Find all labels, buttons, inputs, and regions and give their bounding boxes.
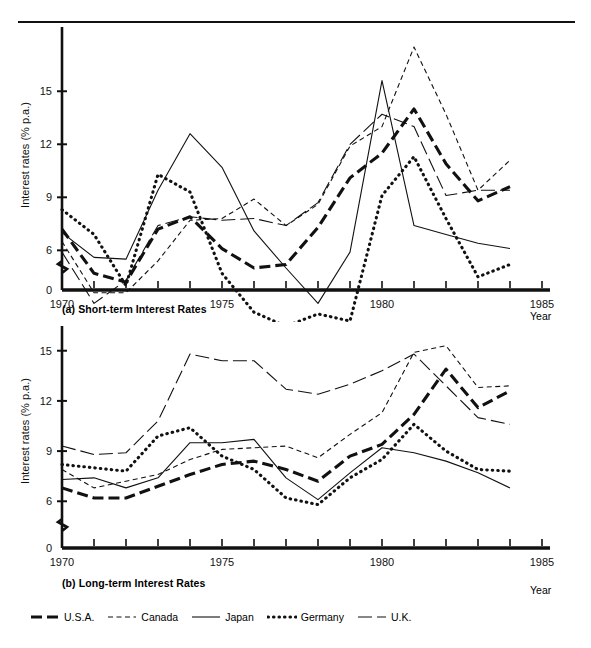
svg-text:9: 9 xyxy=(46,191,52,203)
legend-label: Germany xyxy=(301,611,344,623)
svg-text:0: 0 xyxy=(46,284,52,296)
series-line-germany xyxy=(62,424,510,504)
fine-dash-key xyxy=(107,612,137,622)
caption-long-term: (b) Long-term Interest Rates xyxy=(62,577,205,589)
legend-item-japan: Japan xyxy=(191,611,254,623)
svg-text:12: 12 xyxy=(40,395,52,407)
svg-text:1985: 1985 xyxy=(530,556,554,568)
caption-short-term: (a) Short-term Interest Rates xyxy=(62,303,207,315)
legend-label: Japan xyxy=(225,611,254,623)
solid-key xyxy=(191,612,221,622)
series-line-canada xyxy=(62,346,510,488)
series-line-usa xyxy=(62,369,510,498)
svg-text:Interest rates (% p.a.): Interest rates (% p.a.) xyxy=(19,102,31,208)
svg-text:1985: 1985 xyxy=(530,298,554,310)
series-line-uk xyxy=(62,114,510,303)
legend-item-canada: Canada xyxy=(107,611,178,623)
svg-text:1980: 1980 xyxy=(370,556,394,568)
series-line-canada xyxy=(62,47,510,293)
svg-text:15: 15 xyxy=(40,345,52,357)
series-legend: U.S.A.CanadaJapanGermanyU.K. xyxy=(30,602,570,632)
legend-item-germany: Germany xyxy=(267,611,344,623)
svg-text:0: 0 xyxy=(46,542,52,554)
svg-text:6: 6 xyxy=(46,495,52,507)
long-term-interest-rates-plot: 06912151970197519801985Interest rates (%… xyxy=(0,326,591,596)
short-term-interest-rates-plot: 06912151970197519801985Interest rates (%… xyxy=(0,22,591,322)
chart-panel-short-term: 06912151970197519801985Interest rates (%… xyxy=(0,22,591,322)
svg-text:1975: 1975 xyxy=(210,556,234,568)
svg-text:Interest rates (% p.a.): Interest rates (% p.a.) xyxy=(19,378,31,484)
x-axis-title-b: Year xyxy=(530,584,551,596)
chart-panel-long-term: 06912151970197519801985Interest rates (%… xyxy=(0,326,591,596)
svg-text:15: 15 xyxy=(40,85,52,97)
svg-text:12: 12 xyxy=(40,138,52,150)
legend-label: Canada xyxy=(141,611,178,623)
legend-label: U.K. xyxy=(391,611,411,623)
svg-text:1970: 1970 xyxy=(50,556,74,568)
long-dash-key xyxy=(357,612,387,622)
x-axis-title-a: Year xyxy=(530,310,551,322)
legend-label: U.S.A. xyxy=(64,611,94,623)
series-line-uk xyxy=(62,354,510,454)
legend-item-usa: U.S.A. xyxy=(30,611,94,623)
series-line-germany xyxy=(62,157,510,322)
legend-item-uk: U.K. xyxy=(357,611,411,623)
series-line-usa xyxy=(62,109,510,282)
dotted-key xyxy=(267,612,297,622)
svg-text:6: 6 xyxy=(46,244,52,256)
svg-text:9: 9 xyxy=(46,445,52,457)
svg-text:1975: 1975 xyxy=(210,298,234,310)
thick-dash-key xyxy=(30,612,60,622)
svg-text:1980: 1980 xyxy=(370,298,394,310)
